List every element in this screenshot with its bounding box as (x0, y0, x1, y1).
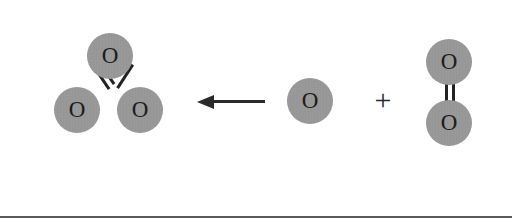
reaction-arrow-head-icon (197, 95, 214, 109)
ozone-central-oxygen: O (87, 33, 133, 79)
reaction-diagram-canvas: O O O O + O O (0, 0, 512, 223)
dioxygen-top-oxygen: O (426, 39, 472, 85)
plus-operator: + (372, 85, 394, 115)
ozone-left-oxygen-label: O (69, 98, 86, 121)
reaction-arrow-shaft (211, 100, 265, 103)
dioxygen-bottom-oxygen-label: O (441, 111, 458, 134)
ozone-left-oxygen: O (54, 87, 100, 133)
reaction-arrow (197, 92, 267, 112)
ozone-right-oxygen: O (117, 87, 163, 133)
dioxygen-top-oxygen-label: O (441, 50, 458, 73)
page-divider (0, 216, 512, 218)
ozone-right-oxygen-label: O (132, 98, 149, 121)
dioxygen-bottom-oxygen: O (426, 100, 472, 146)
free-oxygen: O (287, 78, 333, 124)
free-oxygen-label: O (302, 89, 319, 112)
ozone-central-oxygen-label: O (102, 44, 119, 67)
